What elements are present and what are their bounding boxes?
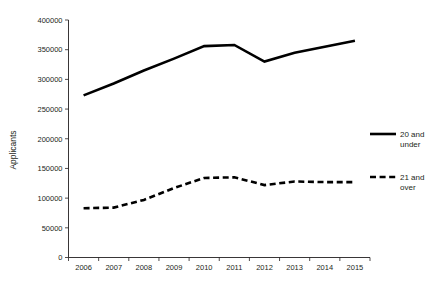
legend-label-line1: 21 and (400, 173, 424, 182)
x-tick-label: 2012 (256, 263, 273, 272)
x-tick-label: 2013 (286, 263, 303, 272)
x-tick-label: 2014 (316, 263, 333, 272)
y-tick-label: 400000 (37, 16, 62, 25)
legend-label-line2: under (400, 140, 421, 149)
legend-label-line2: over (400, 183, 416, 192)
legend-label-line1: 20 and (400, 130, 424, 139)
y-tick-label: 150000 (37, 164, 62, 173)
x-tick-label: 2009 (166, 263, 183, 272)
y-tick-label: 0 (58, 253, 62, 262)
x-tick-label: 2008 (136, 263, 153, 272)
y-axis-title: Applicants (8, 130, 18, 169)
chart-canvas: 0500001000001500002000002500003000003500… (0, 0, 443, 286)
chart-background (0, 0, 443, 286)
x-tick-label: 2015 (347, 263, 364, 272)
y-tick-label: 50000 (42, 224, 63, 233)
y-tick-label: 200000 (37, 135, 62, 144)
x-tick-label: 2010 (196, 263, 213, 272)
x-tick-label: 2011 (226, 263, 242, 272)
y-tick-label: 300000 (37, 75, 62, 84)
y-tick-label: 350000 (37, 45, 62, 54)
y-tick-labels: 0500001000001500002000002500003000003500… (37, 16, 62, 262)
y-tick-label: 100000 (37, 194, 62, 203)
line-chart: 0500001000001500002000002500003000003500… (0, 0, 443, 286)
x-tick-label: 2006 (75, 263, 92, 272)
y-tick-label: 250000 (37, 105, 62, 114)
x-tick-label: 2007 (105, 263, 122, 272)
